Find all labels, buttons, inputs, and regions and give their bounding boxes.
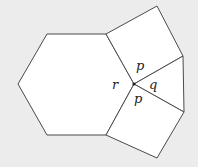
tiling-vertex-diagram: p q p r	[0, 0, 198, 167]
label-lower-p: p	[134, 91, 143, 106]
label-r: r	[112, 77, 119, 92]
vertex-point	[132, 82, 135, 85]
label-upper-p: p	[136, 58, 145, 73]
label-q: q	[149, 77, 157, 92]
